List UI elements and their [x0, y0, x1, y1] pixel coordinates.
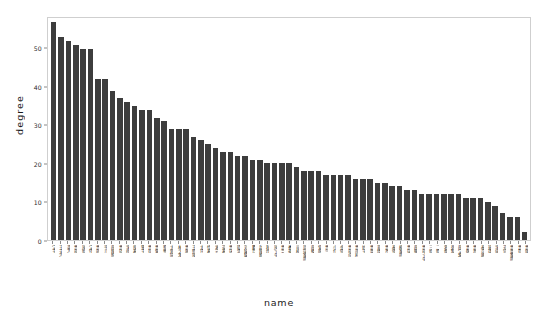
x-tick-mark — [311, 241, 312, 244]
x-tick: 鸳鸯 — [161, 241, 167, 289]
x-tick-mark — [459, 241, 460, 244]
x-tick: 李纨 — [124, 241, 130, 289]
x-tick: 惜春 — [205, 241, 211, 289]
x-tick-label: 迎春 — [220, 245, 225, 253]
x-tick-mark — [488, 241, 489, 244]
x-tick-label: 柳家的 — [398, 245, 403, 257]
bar — [161, 121, 167, 240]
x-tick-mark — [437, 241, 438, 244]
x-tick-mark — [496, 241, 497, 244]
x-tick-mark — [244, 241, 245, 244]
bar — [419, 194, 425, 240]
x-tick-label: 紫鹃 — [316, 245, 321, 253]
x-tick-mark — [481, 241, 482, 244]
x-tick-mark — [267, 241, 268, 244]
x-tick-mark — [178, 241, 179, 244]
bar — [500, 213, 506, 240]
x-tick-mark — [156, 241, 157, 244]
x-tick: 贾琏 — [116, 241, 122, 289]
bar — [382, 183, 388, 240]
x-tick-label: 二姐 — [435, 245, 440, 253]
x-tick-label: 贾蔷 — [368, 245, 373, 253]
x-tick-label: 贾赦 — [183, 245, 188, 253]
y-tick-label: 0 — [38, 238, 42, 245]
bar — [154, 118, 160, 240]
bar — [279, 163, 285, 240]
x-tick-label: 凤姐 — [80, 245, 85, 253]
y-tick-label: 30 — [34, 122, 42, 129]
x-tick: 贾珍 — [146, 241, 152, 289]
x-tick-label: 贾蓉 — [154, 245, 159, 253]
bar — [448, 194, 454, 240]
x-tick: 香菱 — [286, 241, 292, 289]
x-tick-label: 探春 — [132, 245, 137, 253]
x-tick-label: 贾雨村 — [353, 245, 358, 257]
x-tick: 宝玉 — [50, 241, 56, 289]
x-tick-label: 大观园 — [169, 245, 174, 257]
y-tick-label: 20 — [34, 160, 42, 167]
x-tick: 晴雯 — [235, 241, 241, 289]
x-tick: 柳家的 — [397, 241, 403, 289]
x-tick-label: 贾兰 — [324, 245, 329, 253]
bar — [272, 163, 278, 240]
x-tick-label: 秦可卿 — [479, 245, 484, 257]
x-tick-label: 碧痕 — [449, 245, 454, 253]
bar — [58, 37, 64, 240]
x-tick-mark — [510, 241, 511, 244]
bar — [507, 217, 513, 240]
x-tick: 凤姐 — [79, 241, 85, 289]
x-tick-mark — [60, 241, 61, 244]
bar — [213, 148, 219, 240]
bar — [375, 183, 381, 240]
x-tick-mark — [52, 241, 53, 244]
x-tick: 周瑞家的 — [301, 241, 307, 289]
bar — [198, 140, 204, 240]
x-tick-label: 贾菖 — [472, 245, 477, 253]
x-tick-mark — [348, 241, 349, 244]
x-tick: 贾雨村 — [353, 241, 359, 289]
bar — [426, 194, 432, 240]
bar — [360, 179, 366, 240]
x-tick: 紫鹃 — [316, 241, 322, 289]
x-tick-label: 贾琏 — [117, 245, 122, 253]
x-tick-label: 贾芹 — [383, 245, 388, 253]
x-tick-label: 宝玉 — [50, 245, 55, 253]
x-tick-mark — [111, 241, 112, 244]
x-tick-label: 尤氏 — [198, 245, 203, 253]
x-tick-mark — [133, 241, 134, 244]
x-tick-mark — [222, 241, 223, 244]
bar — [345, 175, 351, 240]
x-tick-mark — [326, 241, 327, 244]
x-tick-label: 贾琮 — [516, 245, 521, 253]
y-axis: 01020304050 — [0, 17, 47, 241]
x-tick: 薛宝琴 — [456, 241, 462, 289]
x-tick: 二姐 — [434, 241, 440, 289]
x-tick-label: 袭人 — [65, 245, 70, 253]
bar — [80, 49, 86, 240]
x-tick-mark — [451, 241, 452, 244]
x-tick-label: 翠缕 — [376, 245, 381, 253]
x-tick: 芳官 — [501, 241, 507, 289]
x-tick: 贾芹 — [382, 241, 388, 289]
x-tick-label: 林之孝 — [176, 245, 181, 257]
x-tick-label: 晴雯 — [235, 245, 240, 253]
x-tick-mark — [407, 241, 408, 244]
x-tick-mark — [303, 241, 304, 244]
bar — [397, 186, 403, 240]
x-tick: 迎春 — [220, 241, 226, 289]
bar — [147, 110, 153, 240]
x-tick: 贾环 — [227, 241, 233, 289]
x-tick-mark — [97, 241, 98, 244]
x-tick-label: 贾政 — [95, 245, 100, 253]
bar — [404, 190, 410, 240]
x-tick-label: 玻璃 — [486, 245, 491, 253]
bar — [441, 194, 447, 240]
x-tick-label: 黛玉 — [139, 245, 144, 253]
x-tick-label: 茗烟 — [442, 245, 447, 253]
bar — [132, 106, 138, 240]
bar — [139, 110, 145, 240]
bar — [176, 129, 182, 240]
x-tick-label: 湘云 — [213, 245, 218, 253]
x-tick: 贾蓉 — [153, 241, 159, 289]
x-tick: 茗烟 — [442, 241, 448, 289]
